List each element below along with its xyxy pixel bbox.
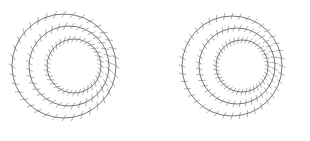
tick-mark: [263, 40, 270, 42]
tick-mark: [211, 34, 213, 41]
tick-mark: [100, 32, 108, 33]
tick-mark: [53, 86, 61, 88]
tick-mark: [97, 102, 98, 110]
figure-stage: [0, 0, 310, 141]
tick-mark: [27, 105, 35, 107]
tick-mark: [195, 27, 198, 33]
tick-mark: [197, 74, 204, 75]
tick-mark: [264, 29, 270, 32]
tick-mark: [228, 87, 233, 92]
tick-mark: [105, 40, 113, 41]
tick-mark: [270, 57, 277, 58]
tick-mark: [93, 52, 101, 53]
tick-mark: [101, 85, 104, 92]
tick-mark: [259, 81, 262, 87]
tick-mark: [94, 79, 96, 87]
tick-mark: [20, 99, 28, 100]
tick-mark: [80, 38, 86, 43]
tick-mark: [46, 54, 51, 60]
right-ring-panel: [179, 13, 286, 120]
tick-mark: [13, 45, 18, 52]
tick-mark: [273, 43, 280, 44]
tick-mark: [270, 78, 275, 83]
tick-mark: [52, 45, 54, 53]
tick-mark: [79, 15, 86, 20]
tick-mark: [251, 40, 256, 45]
tick-mark: [28, 53, 33, 59]
tick-mark: [90, 107, 91, 115]
tick-mark: [264, 72, 270, 76]
tick-mark: [220, 99, 225, 104]
tick-mark: [262, 54, 269, 55]
tick-mark: [23, 29, 25, 37]
tick-mark: [62, 89, 68, 94]
tick-mark: [254, 107, 255, 114]
tick-mark: [15, 92, 23, 93]
tick-mark: [184, 88, 191, 89]
tick-mark: [88, 85, 89, 93]
tick-mark: [38, 17, 39, 25]
tick-mark: [103, 96, 105, 104]
tick-mark: [215, 77, 222, 78]
tick-mark: [214, 111, 218, 117]
tick-mark: [76, 25, 82, 30]
tick-mark: [193, 100, 199, 103]
ring-circle: [47, 39, 101, 93]
tick-mark: [245, 16, 249, 22]
tick-mark: [205, 89, 212, 91]
tick-mark: [105, 73, 110, 79]
tick-mark: [266, 98, 269, 104]
tick-mark: [43, 113, 50, 118]
tick-mark: [230, 39, 231, 46]
tick-mark: [216, 52, 221, 57]
tick-mark: [97, 72, 102, 78]
tick-mark: [88, 32, 95, 35]
tick-mark: [185, 41, 190, 46]
tick-mark: [263, 75, 268, 80]
tick-mark: [215, 56, 221, 60]
tick-mark: [232, 88, 236, 94]
tick-mark: [248, 39, 252, 45]
tick-mark: [209, 18, 210, 25]
tick-mark: [87, 44, 95, 46]
tick-mark: [274, 86, 279, 91]
tick-mark: [228, 26, 229, 33]
ring-circle: [29, 26, 109, 106]
tick-mark: [60, 39, 61, 47]
tick-mark: [207, 108, 212, 113]
tick-mark: [253, 86, 254, 93]
tick-mark: [277, 79, 283, 83]
tick-mark: [182, 48, 188, 52]
tick-mark: [111, 81, 116, 88]
tick-mark: [220, 83, 226, 86]
tick-mark: [30, 22, 31, 30]
tick-mark: [199, 49, 204, 54]
tick-mark: [47, 80, 55, 81]
tick-mark: [260, 92, 262, 99]
left-ring-panel: [9, 11, 120, 122]
tick-mark: [56, 102, 62, 107]
tick-mark: [245, 99, 246, 106]
tick-mark: [252, 19, 257, 24]
tick-mark: [43, 98, 50, 101]
tick-mark: [94, 25, 102, 27]
tick-mark: [249, 28, 254, 33]
ring-circle: [12, 14, 116, 118]
concentric-rings-figure: [0, 0, 310, 141]
tick-mark: [257, 46, 263, 49]
tick-mark: [35, 40, 38, 47]
tick-mark: [222, 44, 225, 50]
